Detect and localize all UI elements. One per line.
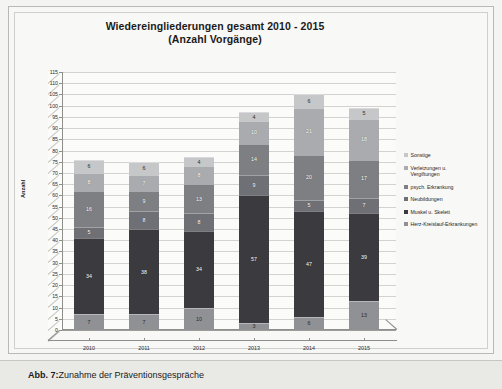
bar-segment[interactable]: 8 (184, 213, 214, 231)
bar-segment-value: 7 (363, 203, 366, 208)
bar-segment[interactable]: 8 (129, 211, 159, 229)
legend-item[interactable]: Neubildungen (404, 196, 490, 203)
plot-area: 0510152025303540455055606570758085909510… (48, 72, 396, 330)
bar-segment[interactable]: 5 (349, 108, 379, 119)
bar-segment[interactable]: 14 (239, 144, 269, 175)
bar-segment[interactable]: 7 (74, 314, 104, 330)
bar-segment-value: 57 (251, 257, 257, 262)
legend-label: Muskel u. Skelett (411, 209, 451, 216)
bar-top-face (294, 94, 324, 95)
y-axis-title: Anzahl (20, 180, 26, 198)
bar-segment[interactable]: 38 (129, 229, 159, 314)
bar-segment[interactable]: 3 (239, 323, 269, 330)
bar-segment-value: 4 (198, 160, 201, 165)
legend-label: Sonstige (411, 152, 431, 159)
bar-segment-value: 6 (308, 99, 311, 104)
bar-segment-value: 20 (306, 175, 312, 180)
legend-label: Neubildungen (411, 196, 443, 203)
gridline (62, 330, 396, 331)
x-axis-tick-mark (199, 338, 200, 341)
bar-segment-value: 8 (88, 180, 91, 185)
bar-segment-value: 16 (86, 207, 92, 212)
bar-segment[interactable]: 5 (74, 227, 104, 238)
bar-segment[interactable]: 10 (184, 308, 214, 330)
x-axis-tick-mark (254, 338, 255, 341)
x-axis-tick-mark (309, 338, 310, 341)
bar-segment-value: 10 (196, 317, 202, 322)
legend-swatch (404, 166, 408, 170)
x-axis-tick-label: 2011 (124, 345, 164, 351)
bar-segment[interactable]: 34 (74, 238, 104, 314)
bar-segment-value: 38 (141, 270, 147, 275)
bar-segment[interactable]: 6 (294, 317, 324, 330)
legend-swatch (404, 222, 408, 226)
bar-series-group: 6816534720106798387201148138341020124101… (62, 72, 396, 330)
x-axis-front-line (48, 340, 397, 341)
bar-segment[interactable]: 6 (129, 162, 159, 175)
legend-item[interactable]: Sonstige (404, 152, 490, 159)
chart-legend: SonstigeVerletzungen u. Vergiftungenpsyc… (404, 152, 490, 234)
legend-item[interactable]: psych. Erkrankung (404, 184, 490, 191)
bar-segment-value: 34 (86, 274, 92, 279)
x-axis-tick-label: 2010 (69, 345, 109, 351)
bar-segment[interactable]: 18 (349, 119, 379, 159)
x-axis-tick-mark (144, 338, 145, 341)
x-axis-tick-label: 2012 (179, 345, 219, 351)
bar-segment[interactable]: 4 (239, 112, 269, 121)
bar-stack: 481383410 (184, 157, 214, 330)
bar-segment[interactable]: 13 (349, 301, 379, 330)
figure-caption-number: Abb. 7: (28, 370, 59, 380)
bar-stack: 410149573 (239, 112, 269, 330)
bar-segment[interactable]: 17 (349, 160, 379, 198)
bar-segment[interactable]: 7 (129, 175, 159, 191)
chart-title-block: Wiedereingliederungen gesamt 2010 - 2015… (30, 20, 400, 46)
bar-segment[interactable]: 20 (294, 155, 324, 200)
bar-segment-value: 34 (196, 267, 202, 272)
bar-segment[interactable]: 13 (184, 184, 214, 213)
bar-segment[interactable]: 6 (294, 94, 324, 107)
figure-caption-text: Zunahme der Präventionsgespräche (59, 370, 205, 380)
chart-subtitle: (Anzahl Vorgänge) (30, 33, 400, 46)
bar-segment-value: 39 (361, 255, 367, 260)
bar-segment-value: 6 (308, 321, 311, 326)
bar-stack: 68165347 (74, 160, 104, 330)
bar-segment[interactable]: 9 (239, 175, 269, 195)
legend-item[interactable]: Muskel u. Skelett (404, 209, 490, 216)
bar-segment-value: 5 (88, 230, 91, 235)
bar-segment[interactable]: 21 (294, 108, 324, 155)
bar-segment[interactable]: 6 (74, 160, 104, 173)
bar-segment[interactable]: 47 (294, 211, 324, 316)
legend-label: Herz-Kreislauf-Erkrankungen (411, 221, 478, 228)
legend-item[interactable]: Verletzungen u. Vergiftungen (404, 165, 490, 178)
bar-segment[interactable]: 57 (239, 195, 269, 323)
legend-label: psych. Erkrankung (411, 184, 454, 191)
bar-segment[interactable]: 5 (294, 200, 324, 211)
bar-segment[interactable]: 34 (184, 231, 214, 307)
bar-segment[interactable]: 7 (129, 314, 159, 330)
bar-segment[interactable]: 16 (74, 191, 104, 227)
chart-title: Wiedereingliederungen gesamt 2010 - 2015 (30, 20, 400, 33)
bar-segment-value: 5 (308, 203, 311, 208)
bar-top-face (74, 160, 104, 161)
bar-segment-value: 4 (253, 115, 256, 120)
bar-segment-value: 7 (88, 320, 91, 325)
bar-segment-value: 13 (361, 313, 367, 318)
bar-segment-value: 9 (253, 183, 256, 188)
legend-swatch (404, 197, 408, 201)
bar-stack: 621205476 (294, 94, 324, 330)
bar-segment[interactable]: 4 (184, 157, 214, 166)
bar-segment[interactable]: 8 (74, 173, 104, 191)
bar-top-face (349, 108, 379, 109)
bar-segment[interactable]: 10 (239, 121, 269, 143)
bar-segment-value: 14 (251, 157, 257, 162)
bar-segment[interactable]: 39 (349, 213, 379, 300)
bar-segment-value: 17 (361, 176, 367, 181)
bar-segment-value: 21 (306, 129, 312, 134)
bar-segment-value: 6 (143, 166, 146, 171)
legend-item[interactable]: Herz-Kreislauf-Erkrankungen (404, 221, 490, 228)
bar-segment[interactable]: 9 (129, 191, 159, 211)
figure-page: Wiedereingliederungen gesamt 2010 - 2015… (0, 0, 502, 389)
legend-swatch (404, 153, 408, 157)
bar-segment[interactable]: 8 (184, 166, 214, 184)
bar-segment[interactable]: 7 (349, 198, 379, 214)
